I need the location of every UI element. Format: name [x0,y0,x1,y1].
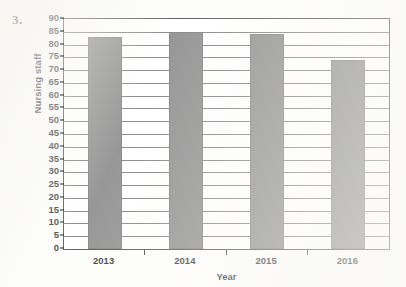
y-tick-mark [60,248,64,249]
y-tick-label: 70 [40,64,59,74]
y-tick-label: 25 [40,179,59,189]
y-tick-label: 0 [40,243,59,253]
y-tick-label: 30 [40,167,59,177]
y-tick-label: 60 [40,90,59,100]
y-tick-label: 45 [40,128,59,138]
y-tick-label: 90 [40,13,59,23]
question-number: 3. [12,12,23,28]
y-tick-mark [60,94,64,95]
x-tick-label: 2013 [93,255,114,266]
y-tick-mark [60,196,64,197]
y-tick-label: 5 [40,230,59,240]
y-axis-tick-labels: 051015202530354045505560657075808590 [40,12,59,256]
y-tick-mark [60,69,64,70]
x-axis-title: Year [63,271,390,282]
bar-2013 [88,37,122,249]
y-tick-mark [60,158,64,159]
y-tick-label: 40 [40,141,59,151]
y-tick-label: 50 [40,115,59,125]
y-tick-label: 15 [40,205,59,215]
y-tick-mark [60,235,64,236]
x-tick-label: 2016 [337,255,358,266]
y-tick-mark [60,222,64,223]
bar-2014 [169,32,203,249]
y-tick-label: 80 [40,39,59,49]
bar-2016 [331,60,365,249]
y-tick-mark [60,56,64,57]
x-axis-tick-labels: 2013201420152016 [63,255,390,269]
y-tick-mark [60,43,64,44]
x-tick-label: 2015 [256,255,277,266]
y-tick-mark [60,145,64,146]
y-tick-mark [60,209,64,210]
bars-layer [64,19,389,249]
y-tick-mark [60,184,64,185]
y-tick-mark [60,81,64,82]
y-tick-mark [60,133,64,134]
y-tick-mark [60,120,64,121]
plot-area [63,18,390,250]
y-tick-mark [60,171,64,172]
y-tick-label: 10 [40,218,59,228]
y-tick-label: 85 [40,26,59,36]
y-tick-label: 20 [40,192,59,202]
y-tick-mark [60,18,64,19]
bar-2015 [250,34,284,249]
figure-root: 3. Nursing staff 05101520253035404550556… [0,0,406,287]
y-tick-label: 65 [40,77,59,87]
y-tick-label: 55 [40,103,59,113]
y-tick-label: 75 [40,52,59,62]
y-tick-label: 35 [40,154,59,164]
x-tick-label: 2014 [174,255,195,266]
y-tick-mark [60,30,64,31]
y-tick-mark [60,107,64,108]
